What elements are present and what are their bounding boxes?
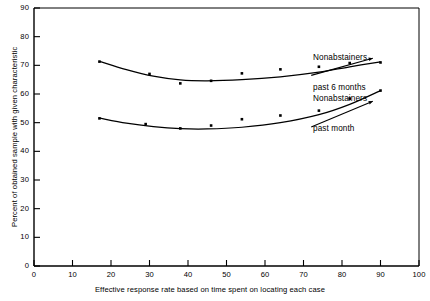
- data-point: [148, 73, 151, 76]
- x-tick-label: 40: [174, 270, 202, 279]
- annotation-line-2: past month: [313, 124, 367, 134]
- data-point: [279, 68, 282, 71]
- y-tick-label: 90: [0, 3, 29, 12]
- x-axis-title: Effective response rate based on time sp…: [0, 285, 420, 294]
- data-point: [179, 127, 182, 130]
- x-tick-label: 50: [213, 270, 241, 279]
- data-point: [379, 61, 382, 64]
- data-point: [144, 123, 147, 126]
- data-point: [210, 124, 213, 127]
- y-axis-title: Percent of obtained sample with given ch…: [10, 47, 19, 227]
- data-point: [279, 114, 282, 117]
- y-tick-label: 50: [0, 118, 29, 127]
- x-tick-label: 10: [59, 270, 87, 279]
- annotation-line-1: Nonabstainers: [313, 94, 367, 104]
- data-point: [241, 72, 244, 75]
- annotation-line-1: Nonabstainers: [313, 53, 367, 63]
- data-point: [179, 82, 182, 85]
- y-tick-label: 0: [0, 261, 29, 270]
- y-tick-label: 10: [0, 232, 29, 241]
- y-tick-label: 40: [0, 146, 29, 155]
- annotation-nonabstainers-past-month: Nonabstainers past month: [313, 74, 367, 154]
- x-tick-label: 60: [251, 270, 279, 279]
- y-tick-label: 30: [0, 175, 29, 184]
- y-tick-label: 20: [0, 204, 29, 213]
- data-point: [379, 89, 382, 92]
- x-tick-label: 100: [405, 270, 430, 279]
- y-axis-ticks: [34, 8, 40, 266]
- x-tick-label: 90: [367, 270, 395, 279]
- x-axis-ticks: [34, 260, 419, 266]
- x-tick-label: 20: [97, 270, 125, 279]
- x-tick-label: 30: [136, 270, 164, 279]
- x-tick-label: 70: [290, 270, 318, 279]
- data-point: [98, 117, 101, 120]
- y-tick-label: 60: [0, 89, 29, 98]
- y-tick-label: 80: [0, 32, 29, 41]
- y-tick-label: 70: [0, 60, 29, 69]
- data-point: [98, 60, 101, 63]
- data-point: [210, 80, 213, 83]
- x-tick-label: 80: [328, 270, 356, 279]
- x-tick-label: 0: [20, 270, 48, 279]
- data-point: [241, 118, 244, 121]
